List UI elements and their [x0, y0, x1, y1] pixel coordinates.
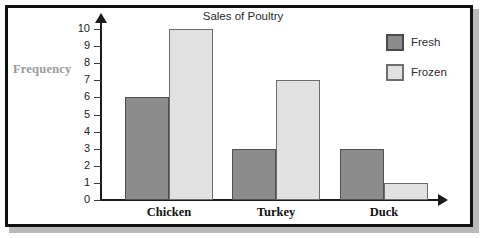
legend-label-fresh: Fresh: [411, 36, 440, 48]
bar-turkey-fresh: [232, 149, 276, 200]
y-tick-0: [94, 200, 101, 201]
y-tick-6: [94, 97, 101, 98]
y-tick-label-1: 1: [0, 177, 90, 188]
y-tick-label-9: 9: [0, 40, 90, 51]
legend-label-frozen: Frozen: [411, 66, 447, 78]
y-tick-label-6: 6: [0, 91, 90, 102]
y-tick-1: [94, 183, 101, 184]
y-tick-2: [94, 166, 101, 167]
y-tick-9: [94, 46, 101, 47]
bar-chicken-fresh: [125, 97, 169, 200]
y-tick-8: [94, 63, 101, 64]
y-tick-label-0: 0: [0, 194, 90, 205]
bar-turkey-frozen: [276, 80, 320, 200]
y-tick-4: [94, 132, 101, 133]
y-tick-label-7: 7: [0, 74, 90, 85]
bar-chicken-frozen: [169, 29, 213, 200]
y-tick-label-2: 2: [0, 160, 90, 171]
bar-chart-plot-area: Sales of Poultry Frequency 109876543210 …: [0, 0, 486, 238]
y-tick-label-4: 4: [0, 126, 90, 137]
y-tick-3: [94, 149, 101, 150]
chart-screenshot: Sales of Poultry Frequency 109876543210 …: [0, 0, 486, 238]
x-category-label-duck: Duck: [320, 205, 448, 220]
y-tick-5: [94, 115, 101, 116]
y-axis-line: [100, 22, 102, 201]
y-tick-label-8: 8: [0, 57, 90, 68]
legend-swatch-fresh-icon: [386, 34, 404, 51]
y-tick-7: [94, 80, 101, 81]
y-tick-label-3: 3: [0, 143, 90, 154]
bar-duck-frozen: [384, 183, 428, 200]
chart-title: Sales of Poultry: [0, 10, 486, 22]
y-tick-label-10: 10: [0, 23, 90, 34]
y-tick-10: [94, 29, 101, 30]
bar-duck-fresh: [340, 149, 384, 200]
y-tick-label-5: 5: [0, 109, 90, 120]
legend-swatch-frozen-icon: [386, 64, 404, 81]
y-axis-arrow-icon: [95, 13, 107, 23]
